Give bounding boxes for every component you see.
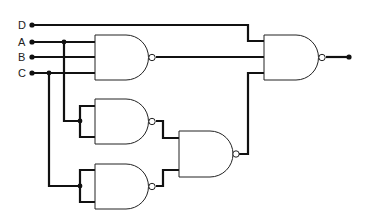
nand-gate-5: [179, 131, 239, 177]
nand-gate-1: [95, 35, 155, 80]
input-label-d: D: [18, 19, 26, 31]
inverter-bubble: [149, 118, 155, 124]
junction-gate3: [78, 184, 83, 189]
nand-gate-2: [95, 99, 155, 144]
inverter-bubble: [149, 183, 155, 189]
junction-a: [62, 40, 67, 45]
wire-a-branch: [64, 42, 80, 121]
inverter-bubble: [319, 54, 325, 60]
output-terminal: [346, 54, 351, 59]
input-label-c: C: [18, 67, 26, 79]
nand-gate-3: [95, 164, 155, 209]
wire-gate2-out: [156, 121, 179, 138]
input-label-a: A: [18, 36, 26, 48]
logic-circuit-diagram: D A B C: [0, 0, 365, 223]
wire-gate3-out: [156, 170, 179, 186]
input-label-b: B: [18, 51, 25, 63]
wire-gate5-out: [239, 73, 264, 154]
wire-d: [32, 25, 264, 41]
inverter-bubble: [149, 54, 155, 60]
nand-gate-4: [264, 35, 325, 80]
junction-c: [47, 71, 52, 76]
junction-gate2: [78, 119, 83, 124]
inverter-bubble: [233, 151, 239, 157]
